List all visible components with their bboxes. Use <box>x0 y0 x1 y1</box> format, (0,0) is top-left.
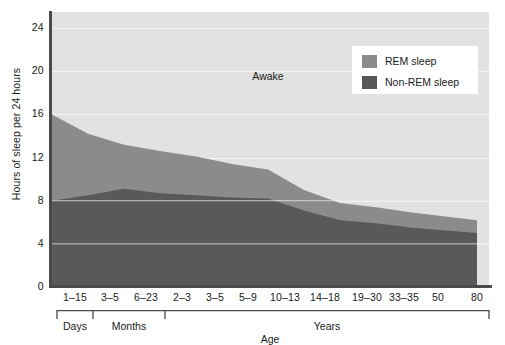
y-axis-title: Hours of sleep per 24 hours <box>10 34 22 234</box>
y-tick-0: 0 <box>6 280 44 292</box>
x-tick-2: 3–5 <box>101 291 119 303</box>
legend-item-non-rem-sleep: Non-REM sleep <box>362 74 459 90</box>
x-tick-9: 19–30 <box>352 291 382 303</box>
x-tick-11: 50 <box>432 291 444 303</box>
legend: REM sleep Non-REM sleep <box>352 46 478 94</box>
x-tick-12: 80 <box>471 291 483 303</box>
legend-swatch-non-rem-sleep <box>362 76 377 89</box>
x-axis-line <box>49 285 492 288</box>
y-tick-4: 4 <box>6 237 44 249</box>
y-axis-line <box>49 11 52 288</box>
x-tick-8: 14–18 <box>310 291 340 303</box>
age-group-label-years: Years <box>314 320 340 332</box>
x-tick-7: 10–13 <box>270 291 300 303</box>
x-tick-4: 2–3 <box>173 291 191 303</box>
awake-region-label: Awake <box>252 70 283 82</box>
legend-swatch-rem-sleep <box>362 55 377 68</box>
x-tick-10: 33–35 <box>389 291 419 303</box>
area-non-rem-sleep <box>52 189 477 287</box>
x-tick-3: 6–23 <box>134 291 158 303</box>
x-tick-1: 1–15 <box>63 291 87 303</box>
age-group-label-months: Months <box>112 320 146 332</box>
sleep-stages-by-age-chart: 04812162024 Hours of sleep per 24 hours … <box>0 0 505 345</box>
legend-label-non-rem-sleep: Non-REM sleep <box>385 76 459 88</box>
x-tick-6: 5–9 <box>239 291 257 303</box>
x-axis-title: Age <box>261 333 280 345</box>
age-group-label-days: Days <box>63 320 87 332</box>
y-tick-24: 24 <box>6 21 44 33</box>
legend-label-rem-sleep: REM sleep <box>385 55 436 67</box>
legend-item-rem-sleep: REM sleep <box>362 53 436 69</box>
x-tick-5: 3–5 <box>206 291 224 303</box>
